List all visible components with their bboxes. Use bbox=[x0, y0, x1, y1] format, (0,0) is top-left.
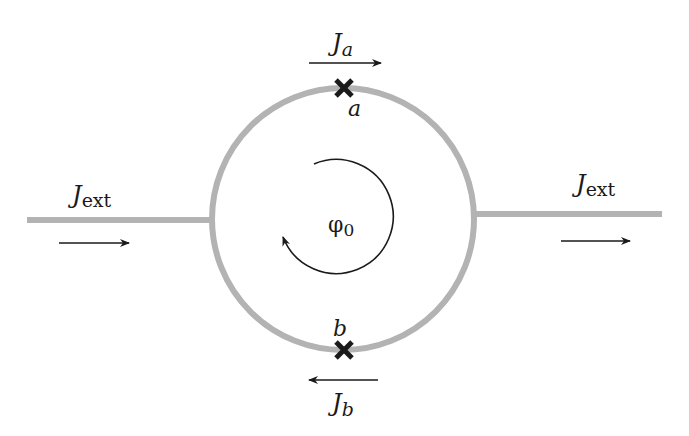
label-jb: Jb bbox=[327, 389, 354, 420]
label-ja: Ja bbox=[327, 29, 353, 60]
label-flux-phi0: φ0 bbox=[328, 212, 354, 240]
squid-diagram: Ja a b Jb Jext Jext φ0 bbox=[0, 0, 689, 436]
label-junction-a: a bbox=[348, 96, 361, 121]
label-jext-right: Jext bbox=[571, 170, 616, 200]
label-jext-left: Jext bbox=[67, 181, 112, 211]
label-junction-b: b bbox=[333, 316, 347, 341]
